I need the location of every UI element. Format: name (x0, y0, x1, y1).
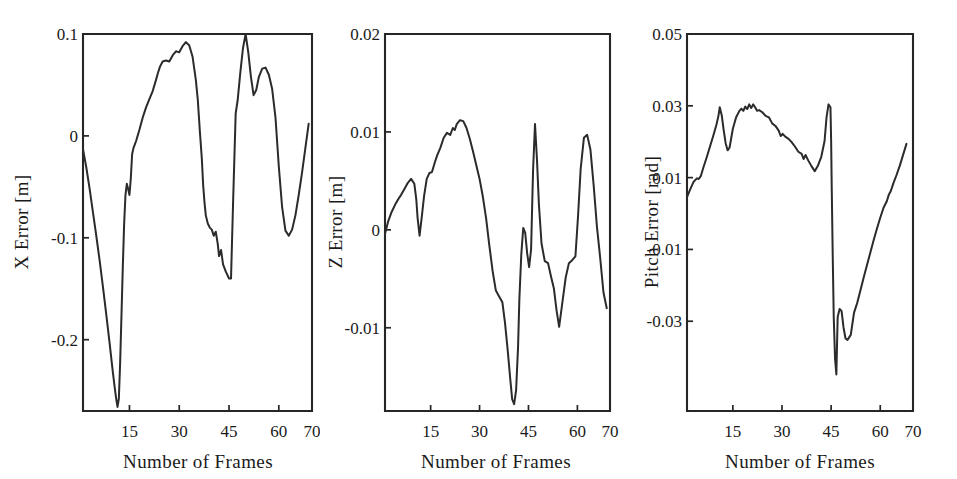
x-tick-label: 30 (471, 422, 488, 441)
y-tick-label: 0.02 (350, 25, 380, 44)
figure-canvas: 0.10-0.1-0.21530456070 Number of Frames … (0, 0, 957, 479)
x-tick-label: 60 (569, 422, 586, 441)
x-tick-label: 15 (422, 422, 439, 441)
y-tick-label: 0.03 (652, 97, 682, 116)
y-tick-label: 0 (70, 127, 79, 146)
data-curve-z-error (385, 120, 607, 404)
y-tick-label: 0.1 (57, 25, 78, 44)
y-tick-label: -0.01 (345, 319, 380, 338)
x-tick-label: 30 (171, 422, 188, 441)
panel-z-error: 0.020.010-0.011530456070 Number of Frame… (320, 0, 640, 479)
x-tick-label: 70 (304, 422, 321, 441)
y-axis-title: Z Error [m] (325, 175, 346, 268)
x-axis-title: Number of Frames (421, 451, 571, 472)
x-tick-label: 45 (823, 422, 840, 441)
x-tick-label: 45 (520, 422, 537, 441)
y-tick-label: -0.2 (51, 331, 78, 350)
plot-x-error: 0.10-0.1-0.21530456070 Number of Frames … (0, 0, 320, 479)
tick-labels-x-error: 0.10-0.1-0.21530456070 (51, 25, 320, 441)
x-tick-label: 60 (270, 422, 287, 441)
y-tick-label: -0.1 (51, 229, 78, 248)
x-tick-label: 30 (773, 422, 790, 441)
x-tick-label: 70 (905, 422, 922, 441)
y-axis-title: Pitch Error [rad] (641, 156, 662, 288)
y-tick-label: -0.03 (647, 312, 682, 331)
x-axis-title: Number of Frames (725, 451, 875, 472)
y-tick-label: 0 (372, 221, 381, 240)
x-tick-label: 15 (121, 422, 138, 441)
x-tick-label: 45 (221, 422, 238, 441)
panel-pitch-error: 0.050.030.01-0.01-0.031530456070 Number … (640, 0, 957, 479)
panel-x-error: 0.10-0.1-0.21530456070 Number of Frames … (0, 0, 320, 479)
x-tick-label: 60 (872, 422, 889, 441)
y-axis-title: X Error [m] (11, 174, 32, 269)
x-tick-label: 15 (724, 422, 741, 441)
data-curve-x-error (83, 34, 309, 407)
y-tick-label: 0.05 (652, 25, 682, 44)
plot-pitch-error: 0.050.030.01-0.01-0.031530456070 Number … (640, 0, 957, 479)
y-tick-label: 0.01 (350, 123, 380, 142)
data-curve-pitch-error (687, 104, 906, 374)
x-tick-label: 70 (602, 422, 619, 441)
x-axis-title: Number of Frames (123, 451, 273, 472)
plot-z-error: 0.020.010-0.011530456070 Number of Frame… (320, 0, 640, 479)
